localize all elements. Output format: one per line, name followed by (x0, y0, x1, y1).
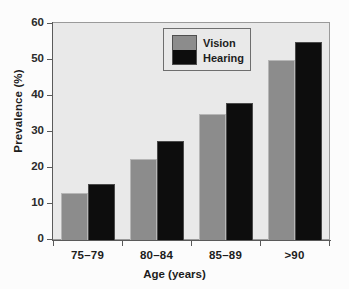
legend-label-hearing: Hearing (203, 53, 244, 64)
x-tick-label: 75–79 (48, 249, 128, 261)
y-tick-mark (47, 167, 52, 168)
y-axis-title: Prevalence (%) (12, 31, 24, 191)
x-tick-mark (329, 241, 330, 246)
y-tick-mark (47, 23, 52, 24)
bar-hearing-1 (157, 141, 184, 240)
legend-swatch-vision (173, 36, 196, 50)
y-tick-label: 10 (4, 197, 44, 209)
y-tick-label: 40 (4, 89, 44, 101)
y-tick-mark (47, 59, 52, 60)
bar-vision-0 (61, 193, 88, 240)
x-tick-mark (53, 241, 54, 246)
bar-vision-3 (268, 60, 295, 240)
bar-vision-2 (199, 114, 226, 240)
y-tick-label: 0 (4, 233, 44, 245)
y-tick-label: 30 (4, 125, 44, 137)
x-tick-mark (191, 241, 192, 246)
x-axis-title: Age (years) (0, 268, 349, 280)
y-tick-label: 50 (4, 53, 44, 65)
legend: Vision Hearing (163, 28, 251, 71)
legend-swatch-hearing (173, 50, 196, 64)
bar-hearing-3 (295, 42, 322, 240)
bar-vision-1 (130, 159, 157, 240)
y-tick-label: 20 (4, 161, 44, 173)
x-tick-mark (260, 241, 261, 246)
y-tick-mark (47, 131, 52, 132)
y-axis-ticks: 0102030405060 (0, 0, 52, 289)
legend-label-vision: Vision (203, 38, 236, 49)
x-tick-label: 80–84 (117, 249, 197, 261)
y-tick-mark (47, 203, 52, 204)
x-tick-mark (122, 241, 123, 246)
x-tick-label: >90 (255, 249, 335, 261)
y-tick-mark (47, 95, 52, 96)
legend-swatch-group (172, 35, 197, 65)
x-tick-label: 85–89 (186, 249, 266, 261)
y-tick-mark (47, 239, 52, 240)
bar-hearing-2 (226, 103, 253, 240)
chart-figure: 0102030405060 75–7980–8485–89>90 Prevale… (0, 0, 349, 289)
y-tick-label: 60 (4, 17, 44, 29)
bar-hearing-0 (88, 184, 115, 240)
y-axis-line (52, 22, 53, 241)
